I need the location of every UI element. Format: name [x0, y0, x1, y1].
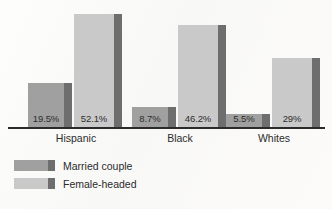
value-label: 52.1% — [74, 114, 114, 124]
value-label: 19.5% — [28, 114, 64, 124]
category-label-whites: Whites — [226, 131, 322, 145]
plot-area: 19.5% 52.1% 8.7% 46.2% — [0, 0, 332, 131]
x-axis-line — [8, 127, 325, 129]
swatch-side-face — [48, 178, 55, 189]
category-axis-labels: Hispanic Black Whites — [0, 131, 332, 149]
legend-swatch-icon — [14, 160, 55, 171]
bar-side-face — [114, 14, 122, 128]
swatch-side-face — [48, 160, 55, 171]
swatch-front — [14, 178, 48, 189]
bar-black-married-couple: 8.7% — [132, 107, 176, 128]
bar-whites-married-couple: 5.5% — [226, 114, 270, 128]
bar-front: 19.5% — [28, 83, 64, 128]
chart-legend: Married couple Female-headed — [14, 158, 137, 194]
bar-side-face — [312, 58, 320, 128]
bar-black-female-headed: 46.2% — [178, 25, 226, 128]
value-label: 5.5% — [226, 114, 262, 124]
bar-side-face — [168, 107, 176, 128]
bar-front: 52.1% — [74, 14, 114, 128]
bar-chart-figure: 19.5% 52.1% 8.7% 46.2% — [0, 0, 332, 209]
bar-hispanic-married-couple: 19.5% — [28, 83, 72, 128]
bar-front: 29% — [272, 58, 312, 128]
legend-item-female-headed: Female-headed — [14, 176, 137, 191]
bar-group-whites: 5.5% 29% — [226, 3, 322, 128]
bar-front: 46.2% — [178, 25, 218, 128]
bar-hispanic-female-headed: 52.1% — [74, 14, 122, 128]
value-label: 46.2% — [178, 114, 218, 124]
bar-front: 5.5% — [226, 114, 262, 128]
legend-label: Married couple — [63, 160, 132, 172]
bar-side-face — [218, 25, 226, 128]
value-label: 8.7% — [132, 114, 168, 124]
bar-side-face — [262, 114, 270, 128]
legend-swatch-icon — [14, 178, 55, 189]
swatch-front — [14, 160, 48, 171]
bar-front: 8.7% — [132, 107, 168, 128]
bar-whites-female-headed: 29% — [272, 58, 320, 128]
value-label: 29% — [272, 114, 312, 124]
bar-side-face — [64, 83, 72, 128]
bar-group-hispanic: 19.5% 52.1% — [28, 3, 124, 128]
legend-item-married-couple: Married couple — [14, 158, 137, 173]
bar-group-black: 8.7% 46.2% — [132, 3, 228, 128]
legend-label: Female-headed — [63, 178, 137, 190]
category-label-hispanic: Hispanic — [28, 131, 124, 145]
category-label-black: Black — [132, 131, 228, 145]
